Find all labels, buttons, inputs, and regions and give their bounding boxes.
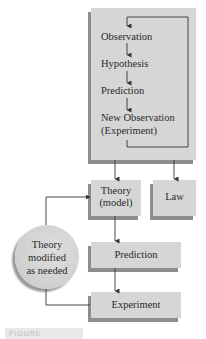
circle-label-line2: modified	[15, 251, 79, 264]
circle-label: Theory modified as needed	[15, 238, 79, 277]
prediction-label: Prediction	[91, 249, 181, 261]
step-new-observation: New Observation	[101, 112, 175, 124]
step-hypothesis: Hypothesis	[101, 58, 148, 70]
circle-label-line1: Theory	[15, 238, 79, 251]
step-experiment: (Experiment)	[101, 125, 157, 137]
connector-arrows	[0, 0, 206, 339]
step-prediction: Prediction	[101, 85, 144, 97]
figure-caption-label: FIGURE	[5, 328, 83, 339]
law-label: Law	[153, 191, 196, 203]
experiment-label: Experiment	[91, 299, 181, 311]
step-observation: Observation	[101, 31, 152, 43]
theory-label-line2: (model)	[91, 197, 141, 209]
theory-label: Theory (model)	[91, 185, 141, 209]
circle-label-line3: as needed	[15, 264, 79, 277]
theory-label-line1: Theory	[91, 185, 141, 197]
